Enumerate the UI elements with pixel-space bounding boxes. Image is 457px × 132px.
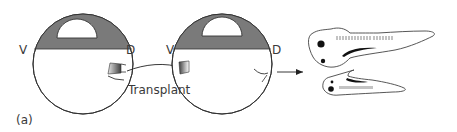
embryo1-ventral-label: V <box>19 44 27 56</box>
eye-icon <box>328 86 334 92</box>
host-embryo <box>170 10 280 114</box>
transplant-label: Transplant <box>128 84 190 96</box>
diagram-canvas <box>0 0 457 132</box>
secondary-tadpole <box>323 70 406 95</box>
panel-label: (a) <box>16 114 33 126</box>
twinned-tadpoles <box>308 28 434 95</box>
embryo2-ventral-label: V <box>166 44 174 56</box>
grafted-organizer <box>179 61 189 74</box>
donor-embryo <box>30 10 140 114</box>
embryo1-dorsal-label: D <box>126 44 135 56</box>
primary-tadpole <box>308 28 434 67</box>
eye-icon <box>317 40 324 47</box>
eye-icon <box>331 81 334 84</box>
eye-icon <box>321 59 325 63</box>
spemann-organizer-transplant-diagram: V D V D Transplant (a) <box>0 0 457 132</box>
embryo2-dorsal-label: D <box>272 44 281 56</box>
organizer-graft <box>108 63 121 74</box>
